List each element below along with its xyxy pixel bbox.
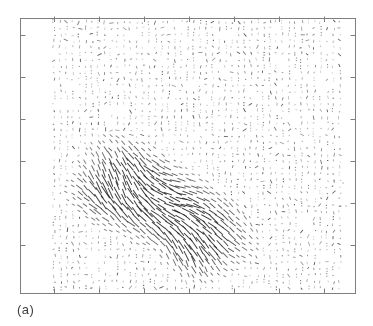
quiver-plot-canvas — [0, 0, 373, 326]
figure-panel: (a) — [0, 0, 373, 326]
panel-label: (a) — [17, 302, 34, 317]
